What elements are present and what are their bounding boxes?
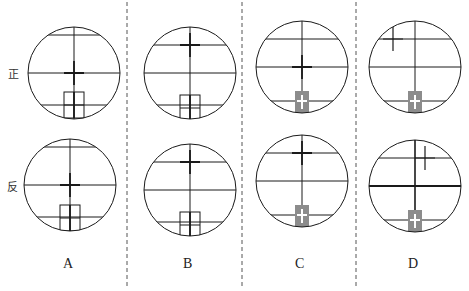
option-label-b: B bbox=[183, 256, 192, 272]
row-label-front: 正 bbox=[8, 65, 19, 81]
row-label-reverse: 反 bbox=[7, 178, 18, 194]
option-label-d: D bbox=[408, 256, 418, 272]
option-label-c: C bbox=[295, 256, 304, 272]
leveling-reticle-diagram bbox=[0, 0, 469, 291]
option-label-a: A bbox=[63, 256, 73, 272]
